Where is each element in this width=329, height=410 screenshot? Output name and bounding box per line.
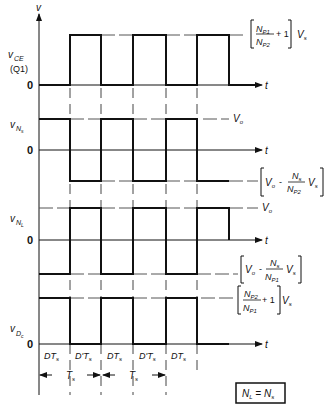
svg-text:t: t bbox=[265, 235, 269, 246]
interval-labels: DTs D'Ts DTs D'Ts DTs bbox=[44, 351, 186, 362]
svg-text:CE: CE bbox=[14, 55, 24, 62]
svg-text:D'Ts: D'Ts bbox=[75, 351, 92, 362]
svg-text:(Q1): (Q1) bbox=[10, 64, 28, 74]
svg-text:+ 1: + 1 bbox=[262, 295, 275, 305]
svg-text:NP2: NP2 bbox=[287, 184, 302, 195]
svg-text:0: 0 bbox=[27, 338, 33, 350]
vnl-low-level-label: Vo - Ns NP1 Vs bbox=[241, 256, 301, 283]
svg-text:NL = Ns: NL = Ns bbox=[242, 388, 274, 400]
waveform-vns: t 0 v Ns Vo Vo - Ns NP2 Vs bbox=[10, 113, 323, 196]
svg-text:NP2: NP2 bbox=[244, 289, 259, 300]
svg-text:DTs: DTs bbox=[171, 351, 186, 362]
svg-text:Vs: Vs bbox=[282, 295, 292, 307]
svg-text:Vo: Vo bbox=[262, 202, 273, 214]
svg-text:Vo: Vo bbox=[245, 264, 256, 276]
period-arrows: Ts Ts bbox=[40, 370, 165, 382]
waveform-vce: t 0 v CE (Q1) NP1 NP2 + 1 Vs bbox=[8, 20, 307, 91]
svg-text:t: t bbox=[265, 80, 269, 91]
svg-text:+ 1: + 1 bbox=[276, 29, 289, 39]
y-axis-label: v bbox=[36, 2, 42, 13]
waveform-vnl: t 0 v NL Vo Vo - Ns NP1 Vs bbox=[10, 202, 301, 283]
svg-text:NL: NL bbox=[16, 219, 24, 228]
svg-text:Vo: Vo bbox=[265, 177, 276, 189]
vdc-high-level-label: NP2 NP1 + 1 Vs bbox=[238, 286, 292, 314]
svg-text:NP1: NP1 bbox=[243, 303, 257, 314]
svg-text:-: - bbox=[279, 177, 282, 187]
svg-text:NP2: NP2 bbox=[256, 37, 271, 48]
vce-high-level-label: NP1 NP2 + 1 Vs bbox=[251, 20, 307, 48]
svg-text:D'Ts: D'Ts bbox=[139, 351, 156, 362]
svg-text:NP1: NP1 bbox=[265, 272, 279, 283]
svg-text:Vo: Vo bbox=[233, 113, 244, 125]
svg-text:Ts: Ts bbox=[129, 370, 138, 382]
svg-text:t: t bbox=[265, 339, 269, 350]
svg-text:DTs: DTs bbox=[44, 351, 59, 362]
svg-text:Dc: Dc bbox=[16, 330, 24, 339]
svg-text:0: 0 bbox=[27, 79, 33, 91]
svg-text:t: t bbox=[265, 145, 269, 156]
svg-text:0: 0 bbox=[27, 234, 33, 246]
svg-text:Ns: Ns bbox=[270, 258, 280, 269]
svg-text:Ts: Ts bbox=[66, 370, 75, 382]
svg-text:DTs: DTs bbox=[107, 351, 122, 362]
svg-text:NP1: NP1 bbox=[256, 24, 270, 35]
svg-text:Vs: Vs bbox=[297, 29, 307, 41]
svg-text:0: 0 bbox=[27, 144, 33, 156]
note-box: NL = Ns bbox=[236, 383, 285, 403]
waveform-diagram: v t 0 v CE (Q1) NP1 NP2 + 1 Vs t bbox=[0, 0, 329, 410]
vns-low-level-label: Vo - Ns NP2 Vs bbox=[261, 168, 323, 196]
svg-text:Vs: Vs bbox=[286, 264, 296, 276]
svg-text:-: - bbox=[259, 264, 262, 274]
svg-text:Vs: Vs bbox=[308, 177, 318, 189]
waveform-vdc: t 0 v Dc NP2 NP1 + 1 Vs bbox=[10, 286, 292, 350]
svg-text:Ns: Ns bbox=[292, 171, 302, 182]
svg-text:Ns: Ns bbox=[16, 125, 24, 134]
